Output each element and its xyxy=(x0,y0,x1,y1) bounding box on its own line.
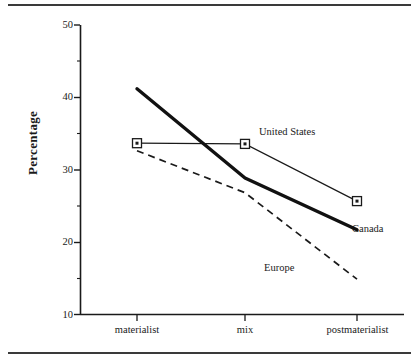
figure-container: Percentage 50 40 30 20 10 materialist mi… xyxy=(0,0,419,363)
series-line-united-states xyxy=(137,143,357,201)
series-line-canada xyxy=(137,89,357,230)
x-ticks xyxy=(137,315,357,322)
plot-svg xyxy=(0,0,419,363)
series-marker-dots-united-states xyxy=(136,142,359,203)
series-markers-united-states xyxy=(133,139,362,206)
y-major-ticks xyxy=(74,25,80,315)
